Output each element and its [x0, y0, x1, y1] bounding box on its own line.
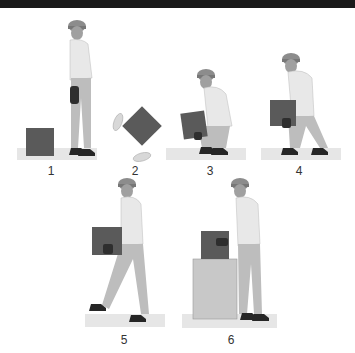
step-2-scene [111, 106, 162, 163]
floor-platform [85, 314, 165, 327]
box [26, 128, 54, 156]
step-label-1: 1 [41, 164, 61, 178]
glove [70, 86, 79, 104]
step-label-6: 6 [221, 333, 241, 347]
step-label-2: 2 [125, 164, 145, 178]
step-5-scene [85, 178, 165, 327]
step-label-5: 5 [114, 333, 134, 347]
step-4-scene [261, 53, 341, 160]
floor-platform [261, 148, 341, 160]
step-label-4: 4 [289, 164, 309, 178]
box [122, 106, 162, 146]
step-label-3: 3 [200, 164, 220, 178]
step-1-scene [17, 20, 97, 160]
step-3-scene [166, 69, 246, 160]
step-6-scene [182, 178, 277, 328]
table [193, 259, 237, 319]
